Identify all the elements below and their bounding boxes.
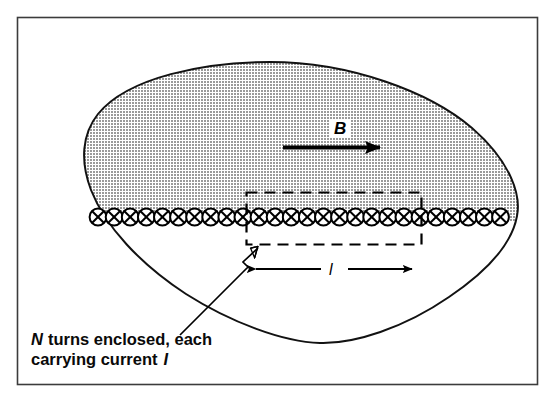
callout-caption-line-1: Nturns enclosed, each [31,330,212,348]
coil-turn-marker [379,209,396,226]
coil-turn-marker [251,209,268,226]
coil-turn-marker [315,209,332,226]
coil-turn-marker [331,209,348,226]
coil-turn-marker [283,209,300,226]
coil-turn-marker [90,209,107,226]
coil-turn-marker [444,209,461,226]
coil-turn-marker [412,209,429,226]
callout-caption-line-2: carrying currentI [31,350,169,368]
callout-symbol-i: I [164,350,169,368]
coil-turn-marker [347,209,364,226]
coil-turn-marker [170,209,187,226]
coil-turn-marker [363,209,380,226]
coil-turn-marker [460,209,477,226]
callout-symbol-n: N [31,330,44,348]
coil-turn-marker [267,209,284,226]
coil-turn-marker [476,209,493,226]
callout-text-1: turns enclosed, each [48,330,212,348]
coil-turn-marker [299,209,316,226]
coil-turn-marker [428,209,445,226]
coil-turn-marker [396,209,413,226]
coil-turn-marker [202,209,219,226]
figure-root: B l Nturns enclosed, each carrying curre… [0,0,549,401]
coil-turn-marker [492,209,509,226]
length-label: l [329,261,333,278]
magnetic-field-label: B [334,119,346,138]
coil-turn-marker [106,209,123,226]
coil-turn-marker [235,209,252,226]
coil-turn-marker [186,209,203,226]
callout-text-2: carrying current [31,350,158,368]
coil-turn-marker [218,209,235,226]
coil-turn-marker [154,209,171,226]
coil-turn-marker [122,209,139,226]
physics-diagram-svg: B l Nturns enclosed, each carrying curre… [0,0,549,401]
coil-turn-marker [138,209,155,226]
